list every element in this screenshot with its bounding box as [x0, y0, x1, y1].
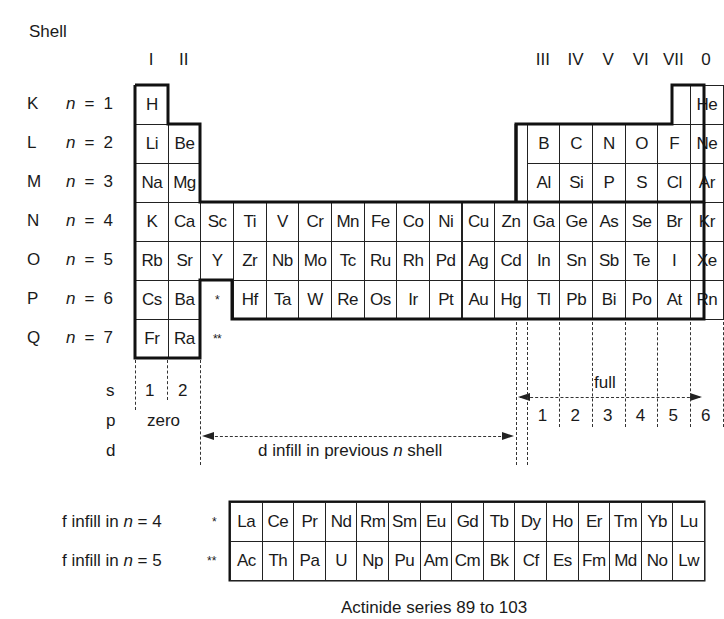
element-cell: In: [527, 241, 561, 281]
element-cell: Au: [462, 280, 496, 320]
element-cell: Ir: [396, 280, 430, 320]
f-infill-label: f infill in n = 4: [62, 512, 162, 532]
orbital-d-label: d: [106, 441, 115, 461]
element-cell: Br: [657, 202, 691, 242]
s-zero-label: zero: [147, 411, 180, 431]
element-cell: Si: [559, 163, 593, 203]
shell-letter: K: [27, 94, 47, 114]
s-number-2: 2: [178, 381, 187, 401]
element-cell: C: [559, 124, 593, 164]
group-label: IV: [559, 50, 591, 70]
element-cell: Sb: [592, 241, 626, 281]
element-cell: La: [230, 502, 263, 542]
element-cell: Es: [546, 541, 579, 581]
element-cell: Po: [625, 280, 659, 320]
element-cell: Xe: [690, 241, 724, 281]
element-cell: Pr: [293, 502, 326, 542]
element-cell: Ta: [266, 280, 300, 320]
element-cell: Pd: [429, 241, 463, 281]
element-cell: Bi: [592, 280, 626, 320]
element-cell: Na: [135, 163, 169, 203]
element-cell: No: [641, 541, 674, 581]
element-cell: Rm: [356, 502, 389, 542]
element-cell: Pb: [559, 280, 593, 320]
f-block-marker: *: [212, 515, 217, 529]
element-cell: Ce: [262, 502, 295, 542]
element-cell: Zr: [233, 241, 267, 281]
element-cell: Co: [396, 202, 430, 242]
element-cell: Mn: [331, 202, 365, 242]
p-full-label: full: [594, 373, 616, 393]
group-label: II: [168, 50, 200, 70]
element-cell: F: [657, 124, 691, 164]
d-infill-arrow-line: [205, 436, 511, 437]
element-cell: Nb: [266, 241, 300, 281]
element-cell: Mg: [168, 163, 202, 203]
element-cell: Lw: [672, 541, 705, 581]
shell-letter: Q: [27, 328, 47, 348]
shell-n-value: n=6: [66, 289, 113, 309]
element-cell: Fm: [578, 541, 611, 581]
divider-d-right: [516, 322, 517, 465]
shell-n-value: n=2: [66, 133, 113, 153]
element-cell: Zn: [494, 202, 528, 242]
p-number: 4: [636, 406, 645, 426]
element-cell: Tm: [609, 502, 642, 542]
group-label: 0: [690, 50, 722, 70]
p-column-divider: [690, 322, 691, 427]
element-cell: Os: [364, 280, 398, 320]
arrow-right-icon: [502, 432, 514, 440]
element-cell: Am: [420, 541, 453, 581]
element-cell: Ba: [168, 280, 202, 320]
element-cell: N: [592, 124, 626, 164]
orbital-s-label: s: [106, 381, 115, 401]
element-cell: I: [657, 241, 691, 281]
element-cell: Hg: [494, 280, 528, 320]
p-number: 3: [603, 406, 612, 426]
element-cell: Fr: [135, 319, 169, 359]
element-cell: Ac: [230, 541, 263, 581]
shell-n-value: n=1: [66, 94, 113, 114]
element-cell: P: [592, 163, 626, 203]
element-cell: Dy: [514, 502, 547, 542]
group-label: VII: [657, 50, 689, 70]
element-cell: Ra: [168, 319, 202, 359]
shell-letter: O: [27, 250, 47, 270]
element-cell: Sr: [168, 241, 202, 281]
shell-letter: P: [27, 289, 47, 309]
element-cell: B: [527, 124, 561, 164]
element-cell: Ne: [690, 124, 724, 164]
element-cell: Rn: [690, 280, 724, 320]
element-cell: As: [592, 202, 626, 242]
p-column-divider: [625, 322, 626, 427]
element-cell: U: [325, 541, 358, 581]
element-cell: Ar: [690, 163, 724, 203]
element-cell: Li: [135, 124, 169, 164]
d-infill-label: d infill in previous n shell: [258, 441, 442, 461]
element-cell: Pt: [429, 280, 463, 320]
group-label: V: [592, 50, 624, 70]
arrow-left-icon: [202, 432, 214, 440]
element-cell: Cr: [298, 202, 332, 242]
element-cell: Cm: [451, 541, 484, 581]
element-cell: Lu: [672, 502, 705, 542]
p-column-divider: [527, 322, 528, 465]
shell-n-value: n=7: [66, 328, 113, 348]
shell-letter: N: [27, 211, 47, 231]
element-cell: Cs: [135, 280, 169, 320]
element-cell: Mo: [298, 241, 332, 281]
p-full-arrow-line: [520, 397, 700, 398]
f-block-marker: *: [200, 280, 234, 320]
element-cell: H: [135, 85, 169, 125]
group-label: I: [135, 50, 167, 70]
element-cell: Np: [356, 541, 389, 581]
element-cell: Tc: [331, 241, 365, 281]
element-cell: He: [690, 85, 724, 125]
element-cell: Cd: [494, 241, 528, 281]
element-cell: Sn: [559, 241, 593, 281]
shell-n-value: n=5: [66, 250, 113, 270]
element-cell: O: [625, 124, 659, 164]
element-cell: Se: [625, 202, 659, 242]
element-cell: S: [625, 163, 659, 203]
element-cell: Cu: [462, 202, 496, 242]
